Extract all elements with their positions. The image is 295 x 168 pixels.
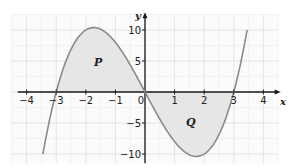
x-tick-label: 0 <box>138 95 144 106</box>
x-axis-label: x <box>279 96 287 107</box>
x-tick-label: −1 <box>108 95 123 106</box>
x-tick-label: 3 <box>231 95 237 106</box>
x-tick-label: 4 <box>260 95 266 106</box>
y-tick-label: 5 <box>135 56 141 67</box>
x-tick-label: −2 <box>78 95 93 106</box>
y-tick-label: −5 <box>126 118 141 129</box>
region-q-label: Q <box>186 116 196 129</box>
x-tick-label: 2 <box>201 95 207 106</box>
y-tick-label: 10 <box>128 25 141 36</box>
x-tick-label: 1 <box>171 95 177 106</box>
y-axis-label: y <box>134 10 142 21</box>
x-tick-label: −4 <box>19 95 34 106</box>
x-tick-label: −3 <box>49 95 64 106</box>
y-tick-label: −10 <box>120 149 141 160</box>
region-p-label: P <box>93 56 103 69</box>
cubic-graph: −4−3−2−101234−10−5510 P Q x y <box>0 0 295 168</box>
